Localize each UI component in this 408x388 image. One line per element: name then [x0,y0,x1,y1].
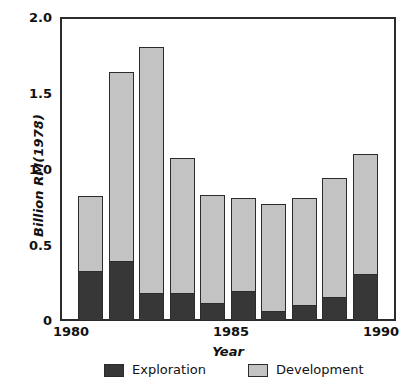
x-tick-label-1990: 1990 [351,325,408,339]
bar-1987 [292,198,317,321]
bar-1982-exploration [140,293,163,320]
x-tick-label-1980: 1980 [41,325,101,339]
bar-1981-exploration [110,261,133,320]
bar-1984 [200,195,225,321]
bar-1988 [322,178,347,321]
bar-1985-exploration [232,291,255,320]
legend-label-development: Development [276,363,364,377]
bar-chart-figure: Billion RM(1978) 2.0 1.5 1.0 0.5 0 [0,0,408,388]
y-tick-label-1_5: 1.5 [0,87,52,100]
y-tick-label-2: 2.0 [0,11,52,24]
legend-item-exploration: Exploration [104,363,206,377]
bar-1989 [353,154,378,321]
legend-label-exploration: Exploration [132,363,206,377]
x-tick-label-1985: 1985 [201,325,261,339]
legend-item-development: Development [248,363,364,377]
bar-1980-exploration [79,271,102,320]
bar-1981 [109,72,134,321]
bars-layer [60,17,396,321]
chart-legend: Exploration Development [0,361,408,385]
bar-1988-exploration [323,297,346,320]
bar-1985 [231,198,256,321]
bar-1983 [170,158,195,321]
bar-1989-exploration [354,274,377,320]
x-axis-title: Year [60,344,396,359]
bar-1980 [78,196,103,321]
bar-1984-exploration [201,303,224,320]
y-tick-label-1: 1.0 [0,163,52,176]
legend-swatch-development-icon [248,364,268,377]
y-tick-label-0_5: 0.5 [0,239,52,252]
bar-1986-exploration [262,311,285,320]
bar-1982 [139,47,164,321]
bar-1987-exploration [293,305,316,320]
bar-1986 [261,204,286,321]
legend-swatch-exploration-icon [104,364,124,377]
bar-1983-exploration [171,293,194,320]
